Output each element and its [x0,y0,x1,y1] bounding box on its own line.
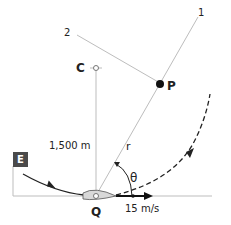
velocity-arrow-icon [144,192,153,200]
line-2 [77,35,160,83]
point-c-label: C [76,62,85,74]
theta-label: θ [130,172,137,184]
boat-hull [83,190,116,199]
radius-label: r [126,141,131,152]
point-p-label: P [167,80,176,92]
q-point [94,194,99,199]
distance-label: 1,500 m [49,141,91,151]
p-point [156,80,164,88]
incoming-arrow-icon [47,180,57,188]
line-2-label: 2 [64,28,70,38]
compass-east-box: E [13,152,28,167]
c-marker [94,66,99,71]
diagram-canvas [0,0,231,225]
point-q-label: Q [91,206,101,218]
incoming-path [23,174,84,195]
line-1-label: 1 [198,8,204,18]
velocity-label: 15 m/s [125,204,159,214]
line-1 [98,17,198,192]
